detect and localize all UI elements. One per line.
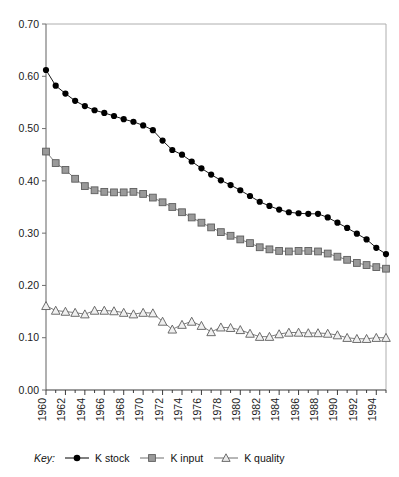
x-axis-tick-label: 1980: [230, 398, 242, 422]
x-axis-tick-label: 1982: [250, 398, 262, 422]
x-axis-tick-label: 1994: [366, 398, 378, 422]
data-point-k-stock: [257, 199, 263, 205]
data-point-k-input: [305, 248, 312, 255]
data-point-k-input: [169, 204, 176, 211]
data-point-k-input: [247, 240, 254, 247]
data-point-k-stock: [198, 165, 204, 171]
data-point-k-input: [208, 224, 215, 231]
x-axis-tick-label: 1976: [191, 398, 203, 422]
data-point-k-input: [324, 250, 331, 257]
data-point-k-input: [43, 148, 50, 155]
x-axis-tick-label: 1974: [172, 398, 184, 422]
data-point-k-input: [120, 189, 127, 196]
data-point-k-stock: [363, 236, 369, 242]
data-point-k-stock: [237, 187, 243, 193]
legend-item-k-stock: K stock: [64, 452, 132, 464]
y-axis-tick-label: 0.70: [19, 18, 40, 30]
series-line-k-input: [46, 152, 386, 269]
x-axis-tick-label: 1964: [75, 398, 87, 422]
chart-legend: Key: K stock K input K quality: [34, 448, 294, 468]
data-point-k-stock: [121, 116, 127, 122]
data-point-k-input: [159, 199, 166, 206]
x-axis-tick-label: 1968: [114, 398, 126, 422]
data-point-k-quality: [246, 329, 255, 337]
data-point-k-input: [315, 248, 322, 255]
y-axis-tick-label: 0.10: [19, 331, 40, 343]
x-axis-tick-label: 1992: [347, 398, 359, 422]
data-point-k-stock: [179, 152, 185, 158]
data-point-k-input: [101, 188, 108, 195]
x-axis-tick-label: 1972: [153, 398, 165, 422]
data-point-k-quality: [187, 317, 196, 325]
data-point-k-quality: [42, 302, 51, 310]
data-point-k-stock: [189, 158, 195, 164]
x-axis-tick-label: 1984: [269, 398, 281, 422]
data-point-k-input: [285, 248, 292, 255]
series-line-k-stock: [46, 70, 386, 254]
data-point-k-quality: [217, 323, 226, 331]
y-axis-tick-label: 0.00: [19, 384, 40, 396]
legend-item-k-input: K input: [139, 452, 206, 464]
data-point-k-input: [334, 253, 341, 260]
y-axis-tick-label: 0.40: [19, 175, 40, 187]
data-point-k-input: [198, 219, 205, 226]
data-point-k-input: [81, 183, 88, 190]
data-point-k-stock: [373, 245, 379, 251]
legend-label-k-input: K input: [170, 452, 203, 464]
data-point-k-input: [130, 188, 137, 195]
data-point-k-stock: [334, 220, 340, 226]
data-point-k-input: [111, 189, 118, 196]
data-point-k-input: [363, 262, 370, 269]
x-axis-tick-label: 1966: [94, 398, 106, 422]
data-point-k-input: [52, 160, 59, 167]
legend-label-k-stock: K stock: [95, 452, 129, 464]
data-point-k-stock: [101, 110, 107, 116]
circle-marker-icon: [64, 452, 90, 464]
y-axis-tick-label: 0.20: [19, 279, 40, 291]
chart-figure: 0.000.100.200.300.400.500.600.7019601962…: [0, 0, 399, 477]
legend-label-k-quality: K quality: [244, 452, 284, 464]
data-point-k-input: [383, 265, 390, 272]
data-point-k-stock: [91, 107, 97, 113]
data-point-k-stock: [227, 182, 233, 188]
data-point-k-stock: [111, 113, 117, 119]
x-axis-tick-label: 1970: [133, 398, 145, 422]
data-point-k-input: [179, 209, 186, 216]
legend-key-label: Key:: [34, 452, 55, 464]
data-point-k-input: [295, 248, 302, 255]
data-point-k-stock: [315, 211, 321, 217]
data-point-k-input: [62, 166, 69, 173]
data-point-k-stock: [62, 90, 68, 96]
data-point-k-stock: [130, 119, 136, 125]
data-point-k-stock: [208, 171, 214, 177]
data-point-k-input: [217, 229, 224, 236]
y-axis-tick-label: 0.50: [19, 122, 40, 134]
data-point-k-input: [188, 214, 195, 221]
data-point-k-quality: [197, 321, 206, 329]
data-point-k-stock: [82, 103, 88, 109]
data-point-k-input: [227, 232, 234, 239]
data-point-k-stock: [150, 127, 156, 133]
data-point-k-stock: [295, 210, 301, 216]
data-point-k-stock: [305, 211, 311, 217]
data-point-k-stock: [266, 203, 272, 209]
data-point-k-stock: [286, 209, 292, 215]
data-point-k-quality: [343, 333, 352, 341]
data-point-k-input: [256, 244, 263, 251]
x-axis-tick-label: 1962: [55, 398, 67, 422]
square-marker-icon: [139, 452, 165, 464]
data-point-k-input: [373, 264, 380, 271]
data-point-k-stock: [344, 225, 350, 231]
data-point-k-input: [266, 246, 273, 253]
y-axis-tick-label: 0.30: [19, 227, 40, 239]
data-point-k-quality: [168, 325, 177, 333]
data-point-k-input: [237, 236, 244, 243]
data-point-k-stock: [53, 83, 59, 89]
data-point-k-quality: [51, 306, 60, 314]
x-axis-tick-label: 1960: [36, 398, 48, 422]
x-axis-tick-label: 1990: [327, 398, 339, 422]
x-axis-tick-label: 1986: [289, 398, 301, 422]
data-point-k-stock: [218, 177, 224, 183]
data-point-k-quality: [178, 320, 187, 328]
y-axis-tick-label: 0.60: [19, 70, 40, 82]
